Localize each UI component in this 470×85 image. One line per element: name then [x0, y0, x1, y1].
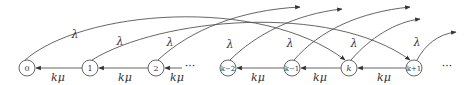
arrival-label: λ [413, 36, 421, 49]
rate-label: kμ [51, 71, 65, 84]
node-label: 1 [87, 64, 92, 73]
rate-label: kμ [377, 71, 391, 84]
ellipsis: ··· [442, 60, 453, 73]
arrival-label: λ [286, 37, 294, 50]
rate-label: kμ [251, 71, 265, 84]
arc-k-2-out [230, 9, 342, 60]
node-label: k−1 [285, 65, 300, 73]
arrival-label: λ [166, 36, 174, 49]
arc-k+1-out [417, 32, 456, 60]
ellipsis: ··· [185, 60, 196, 73]
arrival-label: λ [350, 37, 358, 50]
arrival-label: λ [226, 38, 234, 51]
arc-2-out [158, 7, 300, 60]
arc-k-out [351, 19, 420, 60]
rate-label: kμ [170, 71, 184, 84]
birth-death-diagram: 0 1 2 k−2 k−1 k k+1 ··· ··· kμ kμ kμ kμ … [0, 0, 470, 85]
rate-label: kμ [118, 71, 132, 84]
node-label: k−2 [221, 65, 236, 73]
node-label: k+1 [407, 65, 422, 73]
node-label: 2 [153, 64, 158, 73]
node-label: 0 [24, 64, 29, 73]
arc-1-to-k+1 [92, 22, 410, 60]
rate-label: kμ [313, 71, 327, 84]
node-label: k [347, 64, 352, 73]
arrival-label: λ [71, 28, 79, 41]
arrival-label: λ [116, 35, 124, 48]
